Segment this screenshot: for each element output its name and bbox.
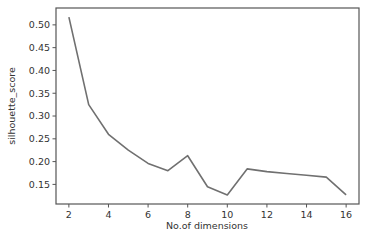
y-tick-label: 0.15 bbox=[29, 179, 50, 190]
y-axis-label: silhouette_score bbox=[6, 67, 17, 145]
x-tick-label: 2 bbox=[66, 209, 72, 220]
line-chart: 246810121416 0.150.200.250.300.350.400.4… bbox=[0, 0, 378, 241]
x-axis-ticks: 246810121416 bbox=[66, 204, 352, 220]
x-tick-label: 6 bbox=[145, 209, 151, 220]
y-tick-label: 0.35 bbox=[29, 88, 50, 99]
y-tick-label: 0.20 bbox=[29, 156, 50, 167]
y-tick-label: 0.30 bbox=[29, 110, 50, 121]
x-tick-label: 16 bbox=[340, 209, 352, 220]
x-tick-label: 8 bbox=[185, 209, 191, 220]
plot-area bbox=[56, 8, 359, 204]
x-tick-label: 4 bbox=[105, 209, 111, 220]
x-tick-label: 10 bbox=[221, 209, 233, 220]
x-tick-label: 14 bbox=[300, 209, 312, 220]
y-tick-label: 0.50 bbox=[29, 19, 50, 30]
y-tick-label: 0.40 bbox=[29, 65, 50, 76]
y-tick-label: 0.45 bbox=[29, 42, 50, 53]
y-tick-label: 0.25 bbox=[29, 133, 50, 144]
axes-frame bbox=[56, 8, 359, 204]
x-axis-label: No.of dimensions bbox=[166, 220, 248, 231]
x-tick-label: 12 bbox=[261, 209, 273, 220]
y-axis-ticks: 0.150.200.250.300.350.400.450.50 bbox=[29, 19, 56, 190]
